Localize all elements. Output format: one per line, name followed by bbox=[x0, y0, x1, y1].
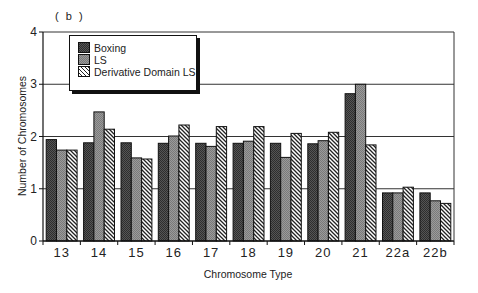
bar-boxing-20 bbox=[308, 144, 318, 241]
bar-ls-14 bbox=[94, 112, 104, 241]
bar-derivative-domain-ls-18 bbox=[254, 127, 264, 241]
y-tick-label: 4 bbox=[30, 25, 37, 39]
bar-derivative-domain-ls-22b bbox=[441, 203, 451, 241]
x-tick-label: 13 bbox=[53, 245, 69, 260]
bar-boxing-19 bbox=[270, 143, 280, 241]
bar-derivative-domain-ls-22a bbox=[403, 187, 413, 241]
bar-boxing-18 bbox=[233, 143, 243, 241]
bar-boxing-16 bbox=[158, 143, 168, 241]
bar-ls-22b bbox=[430, 201, 440, 241]
y-tick-label: 3 bbox=[30, 77, 37, 91]
bars bbox=[46, 84, 451, 241]
legend-item-ls: LS bbox=[78, 54, 107, 65]
x-tick-label: 21 bbox=[352, 245, 368, 260]
bar-boxing-15 bbox=[121, 143, 131, 241]
bar-derivative-domain-ls-20 bbox=[328, 132, 338, 241]
x-tick-label: 20 bbox=[315, 245, 331, 260]
x-tick-label: 14 bbox=[91, 245, 107, 260]
legend-item-derivative-domain-ls: Derivative Domain LS bbox=[78, 66, 196, 77]
x-tick-label: 22a bbox=[386, 245, 411, 260]
bar-derivative-domain-ls-21 bbox=[366, 145, 376, 241]
bar-ls-21 bbox=[355, 84, 365, 241]
bar-ls-16 bbox=[169, 136, 179, 241]
bar-ls-13 bbox=[57, 150, 67, 241]
y-tick-label: 0 bbox=[30, 234, 37, 248]
bar-boxing-22a bbox=[383, 193, 393, 241]
x-axis-title: Chromosome Type bbox=[204, 268, 293, 280]
legend-label: Derivative Domain LS bbox=[94, 66, 196, 78]
ls-swatch-icon bbox=[78, 54, 90, 65]
y-axis-title: Number of Chromosomes bbox=[16, 76, 28, 196]
hatch-swatch-icon bbox=[78, 66, 90, 77]
bar-chart: ( b ) Number of Chromosomes Chromosome T… bbox=[0, 0, 478, 293]
bar-derivative-domain-ls-16 bbox=[179, 125, 189, 241]
boxing-swatch-icon bbox=[78, 42, 90, 53]
bar-derivative-domain-ls-17 bbox=[216, 127, 226, 241]
x-tick-label: 15 bbox=[128, 245, 144, 260]
bar-ls-19 bbox=[281, 157, 291, 241]
bar-ls-15 bbox=[131, 158, 141, 241]
bar-ls-22a bbox=[393, 193, 403, 241]
legend-label: LS bbox=[94, 54, 107, 66]
x-tick-label: 19 bbox=[278, 245, 294, 260]
legend-label: Boxing bbox=[94, 42, 126, 54]
y-tick-label: 1 bbox=[30, 182, 37, 196]
bar-boxing-22b bbox=[420, 193, 430, 241]
bar-ls-20 bbox=[318, 141, 328, 241]
bar-derivative-domain-ls-13 bbox=[67, 150, 77, 241]
y-tick-label: 2 bbox=[30, 130, 37, 144]
bar-derivative-domain-ls-14 bbox=[104, 129, 114, 241]
x-tick-label: 22b bbox=[423, 245, 448, 260]
bar-derivative-domain-ls-15 bbox=[142, 159, 152, 241]
legend-item-boxing: Boxing bbox=[78, 42, 126, 53]
x-tick-label: 17 bbox=[203, 245, 219, 260]
bar-boxing-17 bbox=[196, 143, 206, 241]
x-tick-label: 16 bbox=[166, 245, 182, 260]
panel-label: ( b ) bbox=[55, 10, 85, 22]
bar-ls-17 bbox=[206, 146, 216, 241]
bar-boxing-14 bbox=[84, 143, 94, 241]
bar-ls-18 bbox=[243, 141, 253, 241]
bar-derivative-domain-ls-19 bbox=[291, 133, 301, 241]
bar-boxing-21 bbox=[345, 94, 355, 241]
legend: Boxing LS Derivative Domain LS bbox=[69, 35, 197, 91]
x-tick-label: 18 bbox=[240, 245, 256, 260]
bar-boxing-13 bbox=[46, 140, 56, 241]
